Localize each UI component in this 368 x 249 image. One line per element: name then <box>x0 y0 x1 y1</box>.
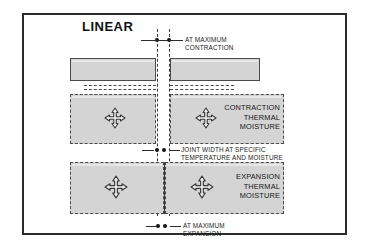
leader-line-middle-right <box>170 150 180 151</box>
diagram-canvas: AT MAXIMUM CONTRACTION CONTRACTION THERM… <box>24 15 349 237</box>
construction-line-left-b <box>84 89 156 90</box>
diagram-page: LINEAR AT MAXIMUM CONTRACTION <box>0 0 368 249</box>
block-label-expansion: EXPANSION THERMAL MOISTURE <box>204 172 280 201</box>
construction-line-right-a <box>170 85 234 86</box>
callout-bottom: AT MAXIMUM EXPANSION <box>183 222 278 239</box>
leader-line-bottom-left <box>146 226 156 227</box>
block-top-left <box>70 58 156 81</box>
block-top-right <box>170 58 260 81</box>
callout-top: AT MAXIMUM CONTRACTION <box>185 36 280 53</box>
diagram-frame: LINEAR AT MAXIMUM CONTRACTION <box>22 13 347 235</box>
leader-dot-bottom-left <box>156 224 160 228</box>
construction-line-left-a <box>84 85 156 86</box>
block-label-contraction: CONTRACTION THERMAL MOISTURE <box>202 103 280 132</box>
leader-dot-middle-left <box>155 148 159 152</box>
leader-line-top <box>141 40 183 41</box>
leader-line-bottom-right <box>170 226 181 227</box>
construction-line-right-b <box>170 89 234 90</box>
leader-dot-middle-right <box>162 148 166 152</box>
four-way-arrow-icon <box>104 107 126 133</box>
leader-line-middle <box>142 150 154 151</box>
four-way-arrow-icon <box>104 175 128 203</box>
leader-dot-bottom-right <box>163 224 167 228</box>
